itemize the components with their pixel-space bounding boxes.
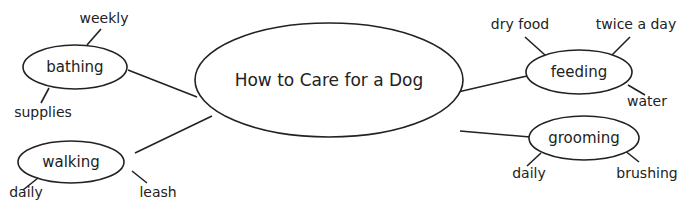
branch-node-grooming: grooming <box>529 116 639 160</box>
branch-label-bathing: bathing <box>46 58 103 76</box>
center-node: How to Care for a Dog <box>195 23 463 137</box>
branch-node-bathing: bathing <box>23 45 127 89</box>
edge-center-bathing <box>128 70 197 97</box>
edge-bathing-supplies <box>41 88 49 103</box>
edge-bathing-weekly <box>87 29 101 45</box>
edge-feeding-twice <box>612 37 630 55</box>
detail-feeding-dry-food: dry food <box>491 16 549 32</box>
edge-feeding-dryfood <box>525 37 545 55</box>
branch-label-feeding: feeding <box>551 63 607 81</box>
edge-center-grooming <box>460 131 530 137</box>
edge-center-walking <box>135 116 212 153</box>
detail-walking-daily: daily <box>9 184 43 200</box>
detail-bathing-weekly: weekly <box>80 10 129 26</box>
detail-grooming-brushing: brushing <box>616 165 677 181</box>
branch-label-walking: walking <box>42 153 100 171</box>
branch-node-feeding: feeding <box>526 50 632 94</box>
branch-node-walking: walking <box>18 141 124 183</box>
center-label: How to Care for a Dog <box>235 70 424 90</box>
detail-feeding-water: water <box>627 93 667 109</box>
edge-walking-leash <box>132 171 147 183</box>
concept-map: How to Care for a Dog bathing weekly sup… <box>0 0 688 209</box>
detail-feeding-twice-a-day: twice a day <box>596 16 676 32</box>
detail-grooming-daily: daily <box>512 165 546 181</box>
branch-label-grooming: grooming <box>548 129 620 147</box>
detail-walking-leash: leash <box>139 184 176 200</box>
edge-center-feeding <box>458 76 527 92</box>
detail-bathing-supplies: supplies <box>14 104 72 120</box>
